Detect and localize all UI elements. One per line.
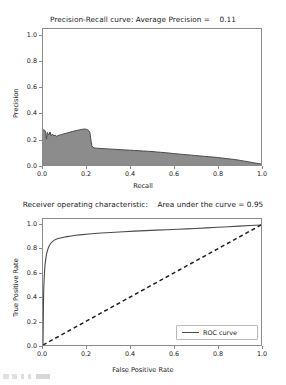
x-tick-label: 0.2 (81, 170, 91, 178)
y-tick-mark (39, 140, 42, 141)
y-tick-label: 0.6 (16, 83, 37, 91)
y-tick-mark (39, 248, 42, 249)
x-tick-label: 1.0 (257, 170, 267, 178)
x-tick-mark (262, 346, 263, 349)
x-tick-label: 0.6 (169, 350, 179, 358)
precision-recall-title: Precision-Recall curve: Average Precisio… (0, 15, 286, 24)
y-tick-mark (39, 113, 42, 114)
x-tick-mark (174, 346, 175, 349)
x-tick-label: 0.8 (213, 170, 223, 178)
y-tick-mark (39, 224, 42, 225)
roc-legend-line-icon (182, 332, 199, 333)
roc-y-axis-label: True Positive Rate (12, 258, 20, 317)
y-tick-label: 0.0 (16, 162, 37, 170)
y-tick-label: 0.8 (16, 57, 37, 65)
x-tick-label: 0.6 (169, 170, 179, 178)
x-tick-mark (42, 346, 43, 349)
y-tick-label: 0.2 (16, 136, 37, 144)
y-tick-mark (39, 166, 42, 167)
x-tick-mark (130, 346, 131, 349)
roc-title: Receiver operating characteristic: Area … (0, 200, 286, 209)
x-tick-mark (130, 166, 131, 169)
x-tick-mark (218, 166, 219, 169)
y-tick-label: 1.0 (16, 220, 37, 228)
x-tick-mark (42, 166, 43, 169)
y-tick-label: 0.0 (16, 342, 37, 350)
roc-x-axis-label: False Positive Rate (0, 366, 286, 374)
precision-recall-figure: Precision-Recall curve: Average Precisio… (0, 0, 286, 195)
y-tick-mark (39, 87, 42, 88)
x-tick-label: 0.8 (213, 350, 223, 358)
x-tick-label: 0.0 (37, 350, 47, 358)
roc-figure: Receiver operating characteristic: Area … (0, 195, 286, 385)
x-tick-mark (174, 166, 175, 169)
x-tick-mark (86, 346, 87, 349)
x-tick-label: 1.0 (257, 350, 267, 358)
x-tick-mark (218, 346, 219, 349)
precision-recall-x-axis-label: Recall (0, 182, 286, 190)
x-tick-label: 0.4 (125, 350, 135, 358)
y-tick-mark (39, 346, 42, 347)
precision-recall-curve-canvas (43, 29, 261, 165)
x-tick-label: 0.4 (125, 170, 135, 178)
page-bottom-artifact (3, 374, 65, 379)
precision-recall-area-fill (43, 129, 261, 165)
y-tick-label: 0.2 (16, 318, 37, 326)
y-tick-mark (39, 273, 42, 274)
y-tick-label: 0.4 (16, 293, 37, 301)
y-tick-label: 1.0 (16, 31, 37, 39)
y-tick-label: 0.8 (16, 244, 37, 252)
y-tick-mark (39, 35, 42, 36)
x-tick-mark (262, 166, 263, 169)
y-tick-label: 0.6 (16, 269, 37, 277)
y-tick-mark (39, 297, 42, 298)
precision-recall-plot-area (42, 28, 262, 166)
x-tick-label: 0.2 (81, 350, 91, 358)
y-tick-mark (39, 322, 42, 323)
x-tick-mark (86, 166, 87, 169)
x-tick-label: 0.0 (37, 170, 47, 178)
y-tick-mark (39, 61, 42, 62)
y-tick-label: 0.4 (16, 109, 37, 117)
roc-legend-label: ROC curve (203, 329, 237, 337)
roc-legend: ROC curve (176, 325, 258, 340)
